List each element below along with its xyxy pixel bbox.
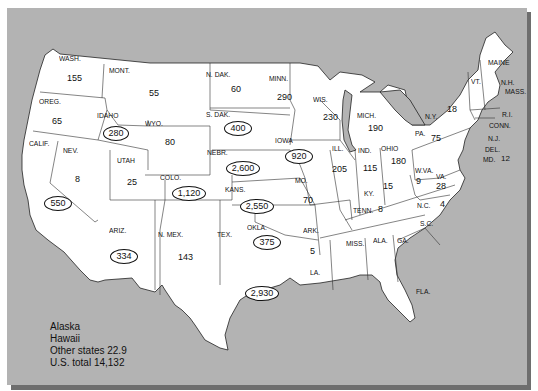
state-label-wyo: WYO. [145,119,163,128]
state-value-sdak: 400 [224,121,252,136]
state-label-sc: S.C. [420,219,433,228]
state-value-kans: 2,550 [240,199,274,214]
legend-hawaii: Hawaii [50,333,127,345]
legend: Alaska Hawaii Other states 22.9 U.S. tot… [50,321,127,369]
state-value-ark: 5 [310,246,315,256]
state-label-nmex: N. MEX. [158,230,183,239]
state-value-nc: 4 [440,199,445,209]
state-label-mass: MASS. [505,87,526,96]
state-value-nev: 8 [75,174,80,184]
state-label-ri: R.I. [502,110,513,119]
state-label-tenn: TENN. [353,206,373,215]
state-value-tex: 2,930 [245,286,279,301]
state-label-nebr: NEBR. [207,148,228,157]
state-label-okla: OKLA. [247,223,267,232]
state-value-calif: 550 [44,196,72,211]
state-label-colo: COLO. [160,173,181,182]
state-label-mich: MICH. [357,111,376,120]
state-label-wis: WIS. [313,95,328,104]
state-value-tenn: 8 [378,204,383,214]
state-value-ky: 15 [383,181,393,191]
state-label-ind: IND. [358,146,372,155]
state-label-mont: MONT. [109,66,130,75]
map-panel: WASH. 155 OREG. 65 CALIF. 550 NEV. 8 IDA… [7,8,527,385]
legend-alaska: Alaska [50,321,127,333]
state-label-iowa: IOWA [275,136,293,145]
state-value-colo: 1,120 [172,186,206,201]
state-label-ark: ARK. [303,226,319,235]
state-label-miss: MISS. [346,239,364,248]
state-value-utah: 25 [127,177,137,187]
state-value-nebr: 2,600 [226,161,260,176]
state-label-ky: KY. [364,189,374,198]
state-value-okla: 375 [253,235,281,250]
state-label-mo: MO. [295,176,308,185]
state-label-ill: ILL. [332,144,343,153]
state-value-iowa: 920 [285,149,313,164]
state-value-ind: 115 [363,163,377,173]
state-value-va: 28 [436,181,446,191]
state-label-ga: GA. [397,236,409,245]
state-value-nmex: 143 [178,252,193,262]
state-value-mont: 55 [149,88,159,98]
state-label-la: LA. [310,268,320,277]
state-label-maine: MAINE [488,58,509,67]
state-value-wyo: 80 [165,137,175,147]
state-label-md: MD. [483,155,495,164]
state-label-pa: PA. [415,129,425,138]
legend-other-states: Other states 22.9 [50,345,127,357]
state-value-md: 12 [501,154,510,163]
state-label-ariz: ARIZ. [109,226,126,235]
state-label-wva: W.VA. [415,166,433,175]
state-label-oreg: OREG. [39,97,61,106]
state-value-mo: 70 [303,195,313,205]
state-label-conn: CONN. [489,121,511,130]
state-label-vt: VT. [471,77,481,86]
state-value-ny: 18 [447,104,457,114]
state-label-nh: N.H. [501,78,515,87]
state-label-utah: UTAH [117,156,135,165]
state-value-ill: 205 [332,164,347,174]
state-value-minn: 290 [277,92,292,102]
state-label-wash: WASH. [59,54,81,63]
state-label-kans: KANS. [225,185,245,194]
state-label-nev: NEV. [63,146,78,155]
state-value-ndak: 60 [231,84,241,94]
state-label-ala: ALA. [373,236,388,245]
state-label-minn: MINN. [269,74,288,83]
state-value-wash: 155 [67,73,82,83]
legend-us-total: U.S. total 14,132 [50,357,127,369]
state-value-pa: 75 [431,133,441,143]
state-value-wva: 9 [416,176,421,186]
state-label-del: DEL. [485,145,500,154]
state-label-tex: TEX. [217,230,232,239]
state-label-fla: FLA. [416,287,430,296]
state-label-ny: N.Y. [425,112,437,121]
state-label-nc: N.C. [417,201,431,210]
state-value-oreg: 65 [52,116,62,126]
state-value-wis: 230 [323,112,338,122]
state-value-ariz: 334 [110,249,138,264]
state-label-idaho: IDAHO [97,111,118,120]
state-label-sdak: S. DAK. [206,110,230,119]
state-value-ohio: 180 [391,156,406,166]
state-value-idaho: 280 [103,126,129,141]
state-label-ndak: N. DAK. [206,70,230,79]
state-label-ohio: OHIO [381,144,398,153]
state-label-nj: N.J. [488,134,500,143]
state-label-va: VA. [436,172,446,181]
state-label-calif: CALIF. [29,139,49,148]
state-value-mich: 190 [368,123,383,133]
